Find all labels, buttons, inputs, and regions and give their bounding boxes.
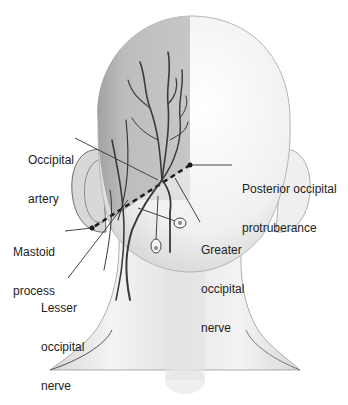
label-occipital-artery: Occipital artery xyxy=(28,128,74,219)
label-posterior-occipital-protuberance: Posterior occipital protruberance xyxy=(242,157,337,248)
label-greater-occipital-nerve: Greater occipital nerve xyxy=(201,218,244,348)
label-lesser-occipital-nerve: Lesser occipital nerve xyxy=(41,276,84,405)
